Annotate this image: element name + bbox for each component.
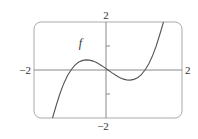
function-label-f: f xyxy=(79,36,84,50)
y-max-label: 2 xyxy=(103,9,109,21)
x-max-label: 2 xyxy=(185,64,191,76)
y-min-label: −2 xyxy=(97,120,109,132)
x-min-label: −2 xyxy=(19,64,31,76)
function-graph: −2 2 2 −2 f xyxy=(0,0,198,139)
